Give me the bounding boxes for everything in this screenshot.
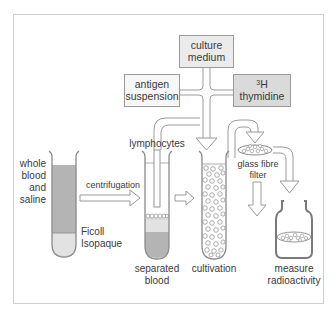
antigen-suspension-box: antigen suspension [125,75,180,107]
whole-blood-label-3: and [29,182,46,193]
lymphocytes-label: lymphocytes [129,138,185,149]
antigen-line2: suspension [125,90,178,102]
measure-label-2: radioactivity [268,275,321,286]
culture-medium-box: culture medium [180,36,234,68]
filter-label-2: filter [249,170,266,180]
culture-medium-line1: culture [191,39,223,51]
pipette [154,150,160,207]
whole-blood-label-1: whole [19,158,47,169]
culture-medium-line2: medium [188,51,226,63]
whole-blood-label-4: saline [20,194,47,205]
cultivation-label: cultivation [192,263,236,274]
whole-blood-tube [49,151,79,257]
whole-blood-label-2: blood [22,170,46,181]
measure-label-1: measure [275,263,314,274]
ficoll-label-2: Isopaque [81,238,123,249]
glass-fibre-filter [238,145,272,156]
thymidine-h: H [260,78,268,90]
separated-blood-label-1: separated [135,263,179,274]
separated-blood-label-2: blood [145,275,169,286]
lymphocyte-assay-diagram: culture medium antigen suspension 3H thy… [0,0,336,318]
filter-label-1: glass fibre [237,159,278,169]
scintillation-vial [276,201,312,258]
thymidine-box: 3H thymidine [234,75,291,107]
centrifugation-label: centrifugation [86,180,140,190]
thymidine-line2: thymidine [240,90,285,102]
antigen-line1: antigen [135,78,170,90]
ficoll-label-1: Ficoll [81,226,104,237]
